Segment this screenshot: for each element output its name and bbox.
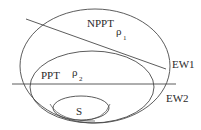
converging-arc — [80, 104, 110, 121]
rho2-subscript: 2 — [79, 75, 83, 83]
rho1-symbol: ρ — [116, 25, 122, 37]
ew2-label: EW2 — [166, 92, 189, 104]
converging-arc — [50, 104, 95, 121]
nppt-label: NPPT — [87, 17, 114, 29]
nested-ellipse-diagram: NPPT ρ 1 PPT ρ 2 S EW1 EW2 — [0, 0, 201, 130]
ew1-label: EW1 — [172, 58, 195, 70]
ppt-label: PPT — [41, 69, 60, 81]
diagram-canvas: NPPT ρ 1 PPT ρ 2 S EW1 EW2 — [0, 0, 201, 130]
rho2-symbol: ρ — [72, 66, 78, 78]
s-label: S — [76, 105, 82, 117]
ppt-ellipse — [30, 51, 154, 123]
rho1-subscript: 1 — [123, 34, 127, 42]
